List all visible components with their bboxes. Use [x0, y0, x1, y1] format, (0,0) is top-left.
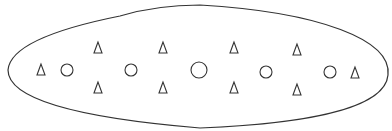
diagram-canvas [0, 0, 392, 131]
circle-marker [324, 66, 336, 78]
circle-marker [260, 66, 272, 78]
circle-markers [61, 62, 336, 78]
triangle-marker [351, 67, 359, 78]
triangle-markers [37, 42, 359, 95]
triangle-marker [159, 82, 167, 93]
circle-marker [191, 62, 207, 78]
circle-marker [125, 64, 137, 76]
triangle-marker [37, 64, 45, 75]
triangle-marker [230, 42, 238, 53]
triangle-marker [159, 42, 167, 53]
triangle-marker [94, 82, 102, 93]
triangle-marker [230, 82, 238, 93]
triangle-marker [293, 44, 301, 55]
triangle-marker [293, 84, 301, 95]
circle-marker [61, 64, 73, 76]
triangle-marker [94, 42, 102, 53]
